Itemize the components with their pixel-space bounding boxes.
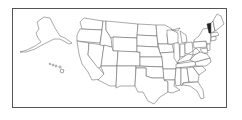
state-arkansas — [163, 69, 176, 80]
state-nebraska — [137, 46, 162, 57]
state-alaska — [20, 17, 72, 52]
state-new-mexico — [116, 66, 136, 88]
continental-us — [77, 14, 224, 104]
state-florida — [183, 82, 204, 99]
state-kansas — [140, 57, 163, 67]
state-montana — [106, 21, 138, 38]
state-massachusetts — [211, 32, 219, 37]
state-ohio — [185, 42, 193, 54]
state-hawaii — [49, 63, 64, 73]
state-north-dakota — [137, 24, 157, 36]
state-maine — [213, 14, 224, 31]
state-indiana — [180, 44, 185, 57]
state-wyoming — [113, 37, 137, 52]
state-colorado — [117, 51, 140, 66]
state-south-dakota — [137, 35, 158, 47]
state-washington — [80, 18, 103, 30]
state-wisconsin — [167, 30, 178, 44]
state-iowa — [158, 44, 174, 53]
us-map — [0, 0, 242, 120]
state-oregon — [77, 29, 102, 43]
state-mississippi — [175, 68, 181, 86]
